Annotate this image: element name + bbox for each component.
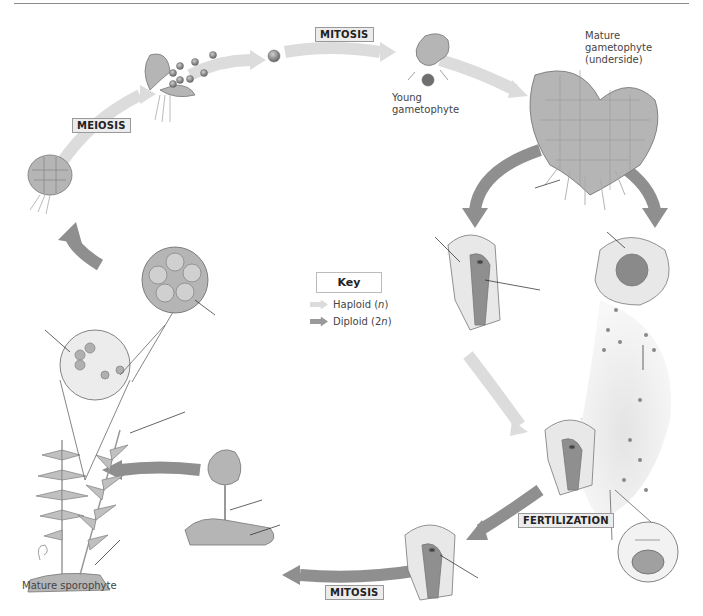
fertilization-glow xyxy=(578,300,672,520)
sorus-detail xyxy=(45,247,215,480)
stage-label-mitosis-top: MITOSIS xyxy=(315,27,374,42)
haploid-arrow-icon xyxy=(310,300,328,310)
legend-key: Key Haploid (n) Diploid (2n) xyxy=(310,272,410,327)
sporangium xyxy=(28,155,72,214)
open-sporangium xyxy=(145,54,195,122)
antheridium xyxy=(595,232,669,305)
legend-item-haploid: Haploid (n) xyxy=(310,299,410,310)
stage-label-fertilization: FERTILIZATION xyxy=(518,513,614,528)
diploid-arrow-icon xyxy=(310,317,328,327)
caption-young-gametophyte: Young gametophyte xyxy=(392,92,459,116)
fertilization-archegonium xyxy=(545,420,595,495)
caption-mature-gametophyte: Mature gametophyte (underside) xyxy=(585,30,652,66)
mature-sporophyte xyxy=(28,412,185,592)
stage-label-mitosis-bottom: MITOSIS xyxy=(325,585,384,600)
archegonium xyxy=(435,235,540,330)
zygote-archegonium xyxy=(405,525,478,600)
caption-mature-sporophyte: Mature sporophyte xyxy=(22,580,117,592)
legend-item-diploid: Diploid (2n) xyxy=(310,316,410,327)
legend-title: Key xyxy=(316,272,382,293)
haploid-arrows xyxy=(60,48,612,425)
stage-label-meiosis: MEIOSIS xyxy=(72,118,131,133)
